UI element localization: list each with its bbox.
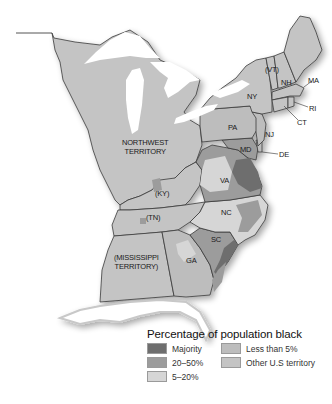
label-georgia: GA	[186, 256, 196, 265]
label-maryland: MD	[240, 145, 251, 154]
label-delaware: DE	[279, 150, 289, 159]
label-kentucky: (KY)	[155, 189, 169, 198]
legend-swatch	[221, 357, 241, 368]
legend-label: Less than 5%	[246, 344, 298, 354]
label-line: TERRITORY	[122, 147, 168, 156]
label-new-york: NY	[247, 92, 257, 101]
legend-label: 5–20%	[172, 372, 198, 382]
legend-label: Other U.S territory	[246, 358, 315, 368]
region-rhode-island	[288, 97, 294, 108]
label-pennsylvania: PA	[228, 123, 237, 132]
label-rhode-island: RI	[309, 104, 316, 113]
label-new-jersey: NJ	[265, 130, 274, 139]
legend-swatch	[147, 357, 167, 368]
label-mississippi-territory: (MISSISSIPPI TERRITORY)	[114, 253, 159, 271]
legend-label: 20–50%	[172, 358, 203, 368]
legend-label: Majority	[172, 344, 202, 354]
label-virginia: VA	[220, 176, 229, 185]
legend-items: Majority Less than 5% 20–50% Other U.S t…	[147, 343, 332, 382]
label-new-hampshire: NH	[281, 78, 291, 87]
legend-item-other-territory: Other U.S territory	[221, 357, 331, 368]
legend-item-5-20: 5–20%	[147, 371, 221, 382]
label-line: TERRITORY)	[114, 262, 159, 271]
label-tennessee: (TN)	[146, 213, 160, 222]
legend-item-20-50: 20–50%	[147, 357, 221, 368]
label-vermont: (VT)	[265, 65, 279, 74]
legend-item-less-than-5: Less than 5%	[221, 343, 331, 354]
label-connecticut: CT	[297, 118, 307, 127]
label-massachusetts: MA	[308, 76, 319, 85]
label-south-carolina: SC	[211, 235, 221, 244]
legend-title: Percentage of population black	[147, 328, 332, 340]
label-line: (MISSISSIPPI	[114, 253, 159, 262]
legend: Percentage of population black Majority …	[147, 328, 332, 382]
legend-swatch	[221, 343, 241, 354]
legend-item-majority: Majority	[147, 343, 221, 354]
legend-swatch	[147, 371, 167, 382]
legend-swatch	[147, 343, 167, 354]
label-line: NORTHWEST	[122, 138, 168, 147]
label-northwest-territory: NORTHWEST TERRITORY	[122, 138, 168, 156]
label-north-carolina: NC	[221, 208, 231, 217]
region-connecticut	[272, 97, 288, 112]
